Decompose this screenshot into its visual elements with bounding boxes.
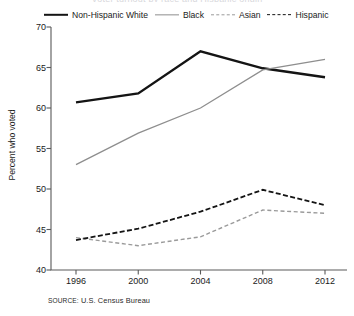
legend-label: Asian [239,11,261,20]
y-tick-label: 40 [36,266,46,275]
legend-swatch-icon [211,12,235,18]
y-tick-label: 55 [36,144,46,153]
series-line-hispanic [76,190,325,240]
source-note: SOURCE: U.S. Census Bureau [48,296,150,305]
legend-swatch-icon [155,12,179,18]
legend-item-asian[interactable]: Asian [211,11,261,20]
series-line-non-hispanic-white [76,51,325,102]
legend-item-non-hispanic-white[interactable]: Non-Hispanic White [44,11,148,20]
chart-legend: Non-Hispanic WhiteBlackAsianHispanic [44,8,350,22]
series-line-black [76,59,325,164]
plot-area: 4045505560657019962000200420082012 [51,27,347,270]
y-tick-label: 65 [36,63,46,72]
legend-swatch-icon [267,12,291,18]
x-tick-label: 2000 [128,277,148,286]
legend-label: Non-Hispanic White [72,11,148,20]
x-tick-label: 2004 [190,277,210,286]
legend-item-hispanic[interactable]: Hispanic [267,11,328,20]
y-tick-label: 70 [36,23,46,32]
chart-title-remnant: Voter turnout by race and Hispanic origi… [0,0,354,2]
legend-label: Black [183,11,204,20]
legend-swatch-icon [44,12,68,18]
x-tick-label: 1996 [66,277,86,286]
y-tick-label: 45 [36,225,46,234]
x-tick-label: 2012 [315,277,335,286]
source-text: U.S. Census Bureau [81,296,150,305]
source-keyword: SOURCE: [48,297,79,304]
chart-figure: Voter turnout by race and Hispanic origi… [0,0,354,316]
legend-item-black[interactable]: Black [155,11,204,20]
y-tick-label: 60 [36,104,46,113]
y-axis-title: Percent who voted [7,85,17,205]
legend-label: Hispanic [295,11,328,20]
y-tick-label: 50 [36,185,46,194]
series-line-asian [76,210,325,246]
x-tick-label: 2008 [253,277,273,286]
plot-svg [51,27,347,270]
